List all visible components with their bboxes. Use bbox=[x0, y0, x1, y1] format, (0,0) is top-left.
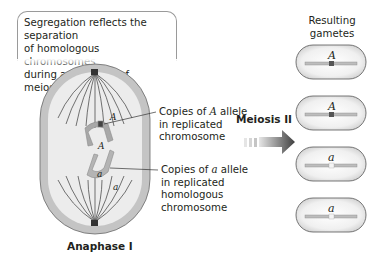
allele-mark-A-2: A bbox=[98, 140, 105, 153]
allele-mark-a-1: a bbox=[97, 168, 102, 181]
allele-mark-A-1: A bbox=[110, 111, 117, 124]
centrosome-upper bbox=[91, 69, 98, 75]
anaphase-i-label: Anaphase I bbox=[67, 240, 133, 252]
gamete-1-allele: A bbox=[328, 50, 336, 63]
label-A-allele: Copies of A allele in replicated chromos… bbox=[159, 106, 247, 144]
gametes-title: Resulting gametes bbox=[302, 15, 362, 40]
allele-mark-a-2: a bbox=[113, 181, 118, 194]
gamete-3-allele: a bbox=[328, 152, 335, 165]
centrosome-lower bbox=[91, 220, 98, 226]
meiosis-arrow bbox=[244, 130, 295, 154]
label-a-allele: Copies of a allele in replicated homolog… bbox=[161, 164, 248, 214]
gamete-2-allele: A bbox=[328, 101, 336, 114]
gamete-4-allele: a bbox=[328, 203, 335, 216]
anaphase-cell bbox=[40, 64, 150, 234]
meiosis-ii-label: Meiosis II bbox=[236, 113, 292, 125]
